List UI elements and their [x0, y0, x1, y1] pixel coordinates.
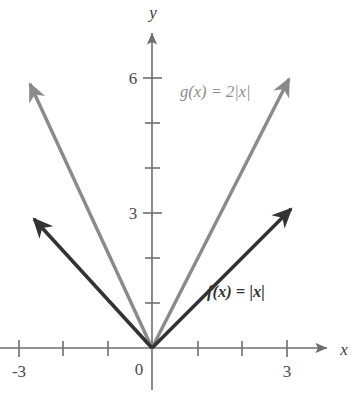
x-tick-label-0: 0 — [135, 360, 144, 379]
y-tick-label-6: 6 — [129, 69, 138, 88]
absolute-value-function-graph: -3 0 3 3 6 x y g(x) = 2|x| f(x) = |x| — [0, 0, 355, 413]
y-axis-label: y — [147, 3, 157, 22]
series-f-left-ray — [34, 219, 152, 348]
series-f-annotation: f(x) = |x| — [207, 282, 265, 301]
y-tick-label-3: 3 — [129, 204, 138, 223]
series-g-annotation: g(x) = 2|x| — [180, 82, 251, 101]
chart-canvas: -3 0 3 3 6 x y g(x) = 2|x| f(x) = |x| — [0, 0, 355, 413]
x-axis-label: x — [339, 340, 348, 359]
x-tick-label-3: 3 — [283, 362, 292, 381]
x-tick-label--3: -3 — [12, 362, 26, 381]
series-f-right-ray — [152, 209, 291, 348]
series-g-right-ray — [152, 79, 289, 348]
